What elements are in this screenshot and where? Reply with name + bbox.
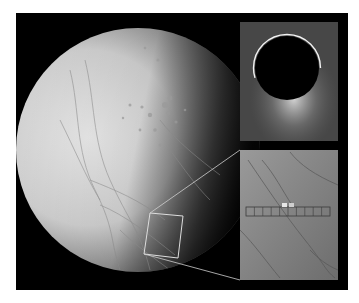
eclipse-disk [255,36,319,100]
inset-eclipse-plume [240,22,338,141]
figure-canvas [16,13,348,290]
enceladus-figure [16,13,348,290]
moon-disk [16,28,266,278]
inset-surface-closeup [240,150,338,280]
